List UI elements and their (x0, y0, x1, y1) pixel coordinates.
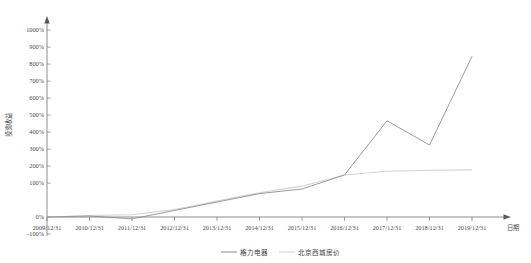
y-axis-ticks (47, 30, 51, 234)
chart-canvas: 1000% 900% 800% 700% 600% 500% 400% 300%… (0, 0, 531, 263)
y-tick-label: 300% (29, 145, 44, 152)
y-tick-label: 1000% (26, 26, 45, 33)
x-tick-label: 2017/12/31 (373, 224, 402, 231)
x-axis-tick-labels: 2009/12/31 2010/12/31 2011/12/31 2012/12… (33, 224, 487, 231)
y-tick-label: 400% (29, 128, 44, 135)
x-tick-label: 2009/12/31 (33, 224, 62, 231)
y-tick-label: 500% (29, 111, 44, 118)
y-tick-label: 0% (36, 213, 45, 220)
legend-label-beijing-housing: 北京西城房价 (298, 248, 340, 257)
y-axis-arrow-icon (44, 16, 49, 24)
x-axis-arrow-icon (504, 214, 512, 219)
y-tick-label: 600% (29, 94, 44, 101)
y-axis-title: 投资收益 (4, 112, 13, 137)
x-tick-label: 2016/12/31 (330, 224, 359, 231)
y-tick-label: -100% (27, 230, 45, 237)
x-tick-label: 2014/12/31 (245, 224, 274, 231)
x-tick-label: 2012/12/31 (160, 224, 189, 231)
x-tick-label: 2018/12/31 (415, 224, 444, 231)
legend-label-gree: 格力电器 (240, 248, 268, 257)
y-axis (44, 16, 49, 236)
x-tick-label: 2013/12/31 (203, 224, 232, 231)
investment-return-line-chart: 1000% 900% 800% 700% 600% 500% 400% 300%… (0, 0, 531, 263)
y-tick-label: 100% (29, 179, 44, 186)
series-layer (47, 56, 472, 219)
x-tick-label: 2011/12/31 (118, 224, 146, 231)
x-tick-label: 2015/12/31 (288, 224, 317, 231)
y-tick-label: 900% (29, 43, 44, 50)
y-tick-label: 200% (29, 162, 44, 169)
y-tick-label: 700% (29, 77, 44, 84)
y-tick-label: 800% (29, 60, 44, 67)
x-axis-title: 日期 (507, 224, 519, 232)
y-axis-tick-labels: 1000% 900% 800% 700% 600% 500% 400% 300%… (26, 26, 45, 237)
series-line-gree (47, 56, 472, 219)
legend: 格力电器 北京西城房价 (221, 248, 340, 257)
x-tick-label: 2010/12/31 (75, 224, 104, 231)
x-tick-label: 2019/12/31 (458, 224, 487, 231)
